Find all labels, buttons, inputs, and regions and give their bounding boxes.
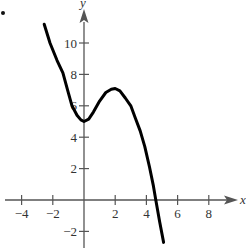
figure-bullet <box>1 11 5 15</box>
x-tick-label: 2 <box>112 206 119 221</box>
y-tick-label: 8 <box>71 67 78 82</box>
function-graph: x −4−22468 y −2246810 <box>0 0 246 252</box>
x-axis-label: x <box>239 192 246 207</box>
y-ticks: −2246810 <box>63 36 89 239</box>
x-axis: x −4−22468 <box>5 192 246 221</box>
x-tick-label: 6 <box>174 206 181 221</box>
x-ticks: −4−22468 <box>15 195 212 221</box>
y-axis-label: y <box>78 0 86 10</box>
x-tick-label: −4 <box>15 206 29 221</box>
y-tick-label: −2 <box>63 224 77 239</box>
y-axis-arrow-icon <box>80 9 89 23</box>
y-tick-label: 2 <box>71 161 78 176</box>
x-tick-label: 4 <box>143 206 150 221</box>
x-tick-label: −2 <box>46 206 60 221</box>
y-tick-label: 10 <box>64 36 77 51</box>
x-tick-label: 8 <box>206 206 213 221</box>
y-axis: y −2246810 <box>63 0 89 248</box>
y-tick-label: 4 <box>71 130 78 145</box>
